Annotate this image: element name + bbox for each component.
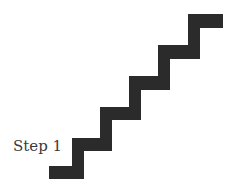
step-label: Step 1 — [13, 137, 62, 155]
staircase-shape — [0, 0, 239, 196]
staircase-path — [49, 14, 223, 179]
